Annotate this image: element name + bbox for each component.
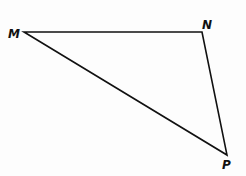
vertex-label-m: M bbox=[8, 27, 20, 41]
triangle-figure: M N P bbox=[0, 0, 246, 176]
triangle-diagram: M N P bbox=[0, 0, 246, 176]
triangle-mnp bbox=[24, 32, 227, 155]
vertex-label-p: P bbox=[222, 158, 231, 172]
vertex-label-n: N bbox=[202, 18, 212, 32]
